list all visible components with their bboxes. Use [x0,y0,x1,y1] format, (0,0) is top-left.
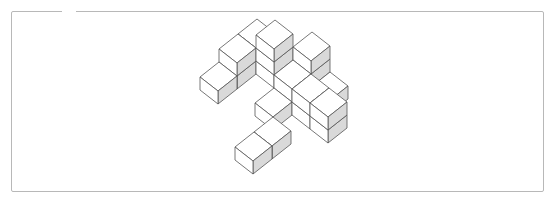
isometric-cube-diagram [0,0,552,204]
